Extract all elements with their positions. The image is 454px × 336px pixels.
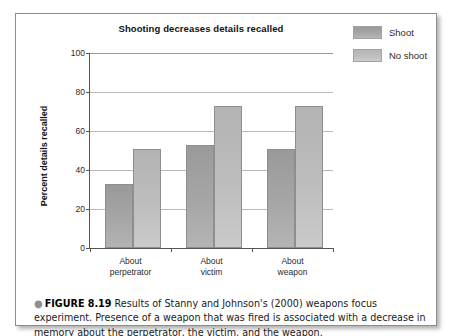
chart-legend: Shoot No shoot [353, 25, 453, 71]
bar-shoot [267, 149, 295, 248]
y-tick-label: 0 [80, 243, 85, 253]
y-axis-title: Percent details recalled [39, 81, 49, 231]
bar-shoot [186, 145, 214, 248]
bar-group [186, 53, 242, 248]
x-axis-label: Aboutweapon [238, 256, 348, 278]
legend-item-shoot: Shoot [353, 25, 453, 39]
legend-label-no-shoot: No shoot [389, 50, 427, 61]
legend-swatch-no-shoot-icon [353, 49, 382, 62]
figure-screenshot: Shooting decreases details recalled Perc… [0, 0, 454, 336]
bar-series-container [90, 53, 333, 248]
bar-shoot [105, 184, 133, 248]
bar-no-shoot [133, 149, 161, 248]
legend-item-no-shoot: No shoot [353, 48, 453, 62]
bar-no-shoot [214, 106, 242, 248]
x-axis-label-line: About [238, 256, 348, 267]
x-tick-mark [90, 248, 91, 252]
caption-bullet-icon: ● [34, 298, 43, 309]
x-tick-mark [333, 248, 334, 252]
bar-group [105, 53, 161, 248]
chart-title: Shooting decreases details recalled [56, 23, 346, 34]
figure-panel: Shooting decreases details recalled Perc… [15, 13, 437, 326]
y-tick-label: 60 [76, 126, 85, 136]
plot-area: 020406080100 AboutperpetratorAboutvictim… [89, 53, 333, 249]
y-tick-label: 80 [76, 87, 85, 97]
caption-figure-number: FIGURE 8.19 [45, 298, 112, 309]
y-tick-label: 40 [76, 165, 85, 175]
chart: Shooting decreases details recalled Perc… [16, 14, 436, 292]
legend-label-shoot: Shoot [389, 27, 414, 38]
figure-caption: ●FIGURE 8.19 Results of Stanny and Johns… [34, 297, 434, 336]
bar-no-shoot [295, 106, 323, 248]
legend-swatch-shoot-icon [353, 26, 382, 39]
bar-group [267, 53, 323, 248]
x-tick-mark [252, 248, 253, 252]
x-tick-mark [171, 248, 172, 252]
x-axis-label-line: weapon [238, 267, 348, 278]
y-tick-label: 100 [71, 48, 85, 58]
y-tick-label: 20 [76, 204, 85, 214]
